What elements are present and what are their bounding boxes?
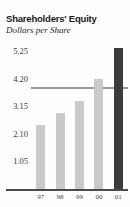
y-axis-tick-label: 3.15: [13, 101, 28, 111]
bar-99: [75, 101, 84, 189]
plot-area: 5.254.203.152.101.05: [0, 40, 130, 192]
y-axis-tick-label: 4.20: [13, 74, 28, 84]
bar-97: [36, 125, 45, 189]
x-axis-line: [6, 189, 128, 191]
y-axis-labels: 5.254.203.152.101.05: [0, 40, 30, 192]
bar-01: [114, 48, 123, 189]
x-axis-tick-label: 00: [95, 193, 102, 201]
chart-subtitle: Dollars per Share: [6, 25, 71, 35]
y-axis-tick-label: 5.25: [13, 46, 28, 56]
bar-98: [56, 113, 65, 189]
chart-title: Shareholders' Equity: [6, 13, 97, 24]
y-axis-tick-label: 1.05: [13, 156, 28, 166]
bar-series: [31, 40, 128, 192]
x-axis-labels: 9798990001: [31, 193, 128, 205]
x-axis-tick-label: 99: [76, 193, 83, 201]
x-axis-tick-label: 98: [57, 193, 64, 201]
x-axis-tick-label: 01: [115, 193, 122, 201]
bar-00: [94, 79, 103, 189]
x-axis-tick-label: 97: [37, 193, 44, 201]
y-axis-tick-label: 2.10: [13, 129, 28, 139]
chart-figure: Shareholders' Equity Dollars per Share 5…: [0, 0, 130, 207]
